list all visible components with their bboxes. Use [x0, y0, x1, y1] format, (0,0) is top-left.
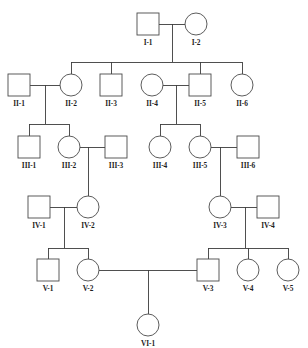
- label-II-3: II-3: [105, 99, 117, 108]
- label-V-1: V-1: [43, 284, 54, 293]
- pedigree-graphics: [0, 0, 308, 348]
- symbol-V-4: [237, 259, 259, 281]
- pedigree-chart: I-1 I-2 II-1 II-2 II-3 II-4 II-5 II-6 II…: [0, 0, 308, 348]
- symbol-II-6: [231, 74, 253, 96]
- label-II-4: II-4: [146, 99, 158, 108]
- symbol-II-1: [8, 74, 30, 96]
- label-III-1: III-1: [22, 161, 36, 170]
- label-V-4: V-4: [243, 284, 254, 293]
- label-II-6: II-6: [236, 99, 248, 108]
- symbol-V-2: [77, 259, 99, 281]
- symbol-IV-2: [77, 196, 99, 218]
- symbol-I-1: [137, 13, 159, 35]
- label-IV-4: IV-4: [261, 221, 274, 230]
- symbol-II-4: [141, 74, 163, 96]
- label-II-2: II-2: [65, 99, 77, 108]
- label-III-6: III-6: [241, 161, 255, 170]
- symbol-III-1: [18, 136, 40, 158]
- label-III-4: III-4: [153, 161, 167, 170]
- symbol-III-2: [58, 136, 80, 158]
- label-V-3: V-3: [203, 284, 214, 293]
- symbol-III-4: [149, 136, 171, 158]
- symbol-III-5: [189, 136, 211, 158]
- label-II-1: II-1: [13, 99, 25, 108]
- symbol-IV-3: [209, 196, 231, 218]
- label-I-1: I-1: [144, 38, 153, 47]
- symbol-I-2: [185, 13, 207, 35]
- symbol-V-1: [37, 259, 59, 281]
- symbol-II-2: [60, 74, 82, 96]
- label-V-2: V-2: [83, 284, 94, 293]
- symbol-II-5: [189, 74, 211, 96]
- label-I-2: I-2: [192, 38, 201, 47]
- label-III-5: III-5: [193, 161, 207, 170]
- symbol-III-3: [105, 136, 127, 158]
- label-III-3: III-3: [109, 161, 123, 170]
- label-II-5: II-5: [194, 99, 206, 108]
- symbol-V-3: [197, 259, 219, 281]
- symbol-IV-1: [28, 196, 50, 218]
- symbol-V-5: [277, 259, 299, 281]
- label-IV-1: IV-1: [32, 221, 45, 230]
- label-III-2: III-2: [62, 161, 76, 170]
- symbol-III-6: [237, 136, 259, 158]
- symbol-IV-4: [257, 196, 279, 218]
- symbol-VI-1: [137, 314, 159, 336]
- label-IV-3: IV-3: [213, 221, 226, 230]
- label-IV-2: IV-2: [81, 221, 94, 230]
- symbol-II-3: [100, 74, 122, 96]
- label-VI-1: VI-1: [141, 339, 155, 348]
- label-V-5: V-5: [283, 284, 294, 293]
